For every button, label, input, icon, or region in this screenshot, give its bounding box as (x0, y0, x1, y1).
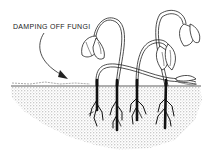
arrow-head-icon (58, 70, 68, 79)
callout-label: DAMPING OFF FUNGI (13, 23, 90, 30)
damping-off-illustration: DAMPING OFF FUNGI (0, 0, 211, 157)
callout-arrow (40, 33, 62, 75)
seedling-4 (156, 10, 200, 86)
soil-debris (12, 82, 90, 84)
soil-region (11, 87, 202, 150)
seedling-2 (96, 64, 197, 86)
